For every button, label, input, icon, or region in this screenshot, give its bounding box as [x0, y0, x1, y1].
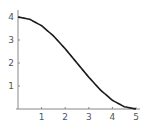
line-chart: 12345 1234 [0, 0, 145, 121]
x-tick-label: 3 [86, 112, 92, 121]
data-curve [18, 17, 136, 109]
y-tick-label: 3 [8, 35, 14, 45]
y-tick-label: 4 [8, 12, 14, 22]
x-tick-label: 5 [133, 112, 139, 121]
x-tick-label: 2 [62, 112, 68, 121]
y-tick-label: 2 [8, 58, 14, 68]
y-tick-label: 1 [8, 81, 14, 91]
x-tick-label: 1 [39, 112, 45, 121]
x-tick-label: 4 [110, 112, 116, 121]
